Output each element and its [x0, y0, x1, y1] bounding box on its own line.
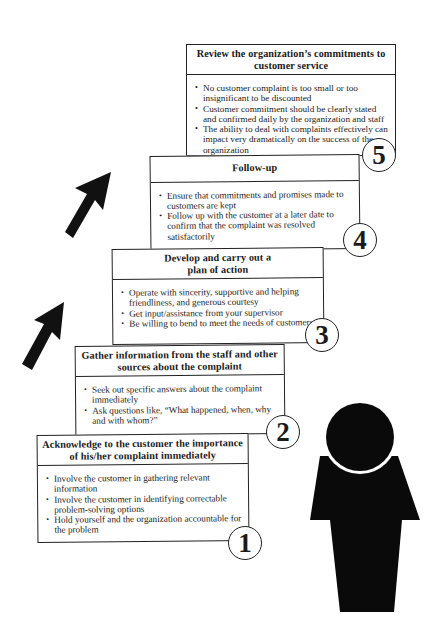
bullet-item: Follow up with the customer at a later d… — [159, 209, 353, 242]
bullet-item: Be willing to bend to meet the needs of … — [121, 317, 317, 329]
step-title: Develop and carry out a plan of action — [113, 248, 323, 280]
step-3-box: Develop and carry out a plan of action O… — [112, 247, 325, 345]
step-title: Acknowledge to the customer the importan… — [38, 434, 248, 466]
bullet-item: Ensure that commitments and promises mad… — [159, 188, 353, 211]
bullet-item: Involve the customer in identifying corr… — [46, 493, 242, 515]
step-number-4: 4 — [343, 223, 377, 257]
up-right-arrow-icon — [20, 300, 70, 372]
person-silhouette-icon — [290, 400, 430, 620]
up-right-arrow-icon — [63, 170, 123, 240]
step-5-box: Review the organization’s commitments to… — [186, 44, 396, 156]
bullet-item: No customer complaint is too small or to… — [195, 83, 389, 104]
step-number-3: 3 — [305, 318, 339, 352]
step-bullets: No customer complaint is too small or to… — [187, 75, 395, 155]
bullet-item: The ability to deal with complaints effe… — [195, 124, 389, 155]
step-bullets: Seek out specific answers about the comp… — [76, 375, 284, 426]
step-bullets: Involve the customer in gathering releva… — [38, 464, 249, 536]
step-title: Review the organization’s commitments to… — [187, 45, 395, 75]
bullet-item: Involve the customer in gathering releva… — [46, 472, 242, 494]
bullet-item: Ask questions like, “What happened, when… — [84, 404, 278, 426]
step-1-box: Acknowledge to the customer the importan… — [37, 433, 250, 543]
step-title: Gather information from the staff and ot… — [76, 345, 284, 377]
step-title: Follow-up — [151, 155, 359, 183]
step-number-1: 1 — [228, 526, 262, 560]
step-bullets: Ensure that commitments and promises mad… — [151, 180, 360, 242]
bullet-item: Customer commitment should be clearly st… — [195, 104, 389, 125]
bullet-item: Hold yourself and the organization accou… — [46, 513, 242, 535]
step-number-5: 5 — [362, 138, 396, 172]
step-bullets: Operate with sincerity, supportive and h… — [113, 278, 323, 329]
step-2-box: Gather information from the staff and ot… — [75, 344, 286, 436]
bullet-item: Seek out specific answers about the comp… — [84, 383, 278, 405]
step-number-2: 2 — [266, 415, 300, 449]
step-4-box: Follow-up Ensure that commitments and pr… — [150, 154, 361, 251]
bullet-item: Operate with sincerity, supportive and h… — [121, 286, 317, 308]
